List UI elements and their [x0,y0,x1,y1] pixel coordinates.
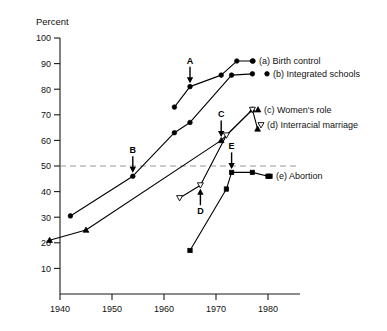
legend-entry-c: (c) Women's role [255,105,331,115]
line-chart: Percent 102030405060708090100 1940195019… [0,0,387,331]
legend-label-a: (a) Birth control [259,56,321,66]
legend-marker-b [265,72,270,77]
x-tick-label: 1980 [258,304,278,314]
y-tick-label: 80 [41,85,51,95]
arrow-head-D [197,189,203,195]
series-line-b [70,74,252,216]
x-tick-label: 1940 [50,304,70,314]
annotation-B: B [130,145,137,173]
y-tick-label: 50 [41,161,51,171]
chart-legend: (a) Birth control(b) Integrated schools(… [251,56,361,181]
legend-entry-d: (d) Interracial marriage [258,120,358,130]
y-axis-ticks: 102030405060708090100 [36,33,60,273]
x-tick-label: 1960 [154,304,174,314]
y-tick-label: 10 [41,264,51,274]
series-line-c [50,110,258,241]
legend-marker-c [255,107,261,112]
data-point-d-1 [197,183,203,188]
data-point-a-3 [235,59,240,64]
annotation-label-D: D [197,206,204,216]
legend-label-c: (c) Women's role [264,105,332,115]
x-tick-label: 1950 [102,304,122,314]
annotation-label-A: A [187,56,194,66]
data-point-e-1 [224,187,228,191]
arrow-head-A [187,77,193,83]
data-point-b-5 [250,72,255,77]
chart-container: Percent 102030405060708090100 1940195019… [0,0,387,331]
data-point-b-0 [68,214,73,219]
series-lines [50,61,268,250]
data-point-e-3 [250,170,254,174]
data-point-e-0 [188,248,192,252]
arrow-head-C [218,131,224,137]
data-point-b-1 [131,174,136,179]
legend-marker-d [258,123,264,128]
y-axis-title: Percent [36,16,69,27]
x-tick-label: 1970 [206,304,226,314]
legend-label-e: (e) Abortion [276,171,323,181]
legend-entry-e: (e) Abortion [268,171,323,181]
data-point-b-2 [172,130,177,135]
data-point-a-2 [219,73,224,78]
data-point-c-4 [255,126,261,131]
y-tick-label: 100 [36,33,51,43]
annotation-label-E: E [229,141,235,151]
data-point-e-2 [229,170,233,174]
legend-entry-a: (a) Birth control [251,56,321,66]
series-markers [47,59,270,253]
data-point-a-0 [172,105,177,110]
legend-marker-e [268,174,272,178]
annotation-label-C: C [218,109,225,119]
annotation-A: A [187,56,194,84]
legend-entry-b: (b) Integrated schools [265,69,361,79]
data-point-b-3 [188,120,193,125]
y-tick-label: 30 [41,213,51,223]
data-point-a-1 [188,84,193,89]
legend-marker-a [251,59,256,64]
annotation-D: D [197,189,204,217]
legend-label-d: (d) Interracial marriage [267,120,358,130]
series-line-a [174,61,252,107]
arrow-head-B [130,167,136,173]
x-axis-ticks: 19401950196019701980 [50,294,278,314]
annotation-E: E [228,141,234,169]
y-tick-label: 60 [41,136,51,146]
y-tick-label: 70 [41,110,51,120]
data-point-b-4 [229,73,234,78]
annotation-label-B: B [130,145,137,155]
data-point-d-0 [177,196,183,201]
y-tick-label: 40 [41,187,51,197]
data-point-c-1 [83,227,89,232]
legend-label-b: (b) Integrated schools [273,69,361,79]
y-tick-label: 90 [41,59,51,69]
annotation-arrows: ABCDE [130,56,235,217]
